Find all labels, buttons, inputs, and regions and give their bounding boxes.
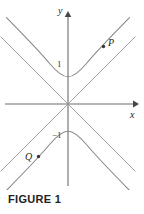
x-axis-arrowhead-icon: [133, 101, 139, 108]
point-marker-q: [37, 155, 40, 158]
figure-container: y x P Q 1 −1 FIGURE 1: [0, 0, 144, 214]
tick-label-lower-vertex: −1: [52, 131, 62, 140]
plot-svg: [0, 0, 144, 190]
y-axis-arrowhead-icon: [65, 11, 72, 17]
figure-caption: FIGURE 1: [8, 194, 61, 205]
point-label-q: Q: [25, 152, 32, 162]
x-axis: [5, 101, 139, 108]
point-marker-p: [102, 45, 105, 48]
hyperbola-plot: y x P Q 1 −1: [0, 0, 144, 190]
tick-label-upper-vertex: 1: [57, 60, 62, 69]
y-axis-label: y: [58, 6, 62, 16]
y-axis: [65, 11, 72, 186]
x-axis-label: x: [130, 110, 134, 120]
point-label-p: P: [108, 38, 114, 48]
